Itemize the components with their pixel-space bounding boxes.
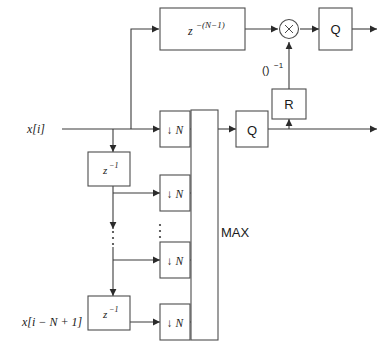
arrow-into-downsampler-3 bbox=[153, 257, 160, 264]
block-delay-unit-1-base: z bbox=[102, 164, 108, 176]
block-quantizer-mid-label: Q bbox=[247, 123, 257, 138]
arrow-into-downsampler-1 bbox=[153, 126, 160, 133]
block-max[interactable] bbox=[191, 110, 218, 340]
arrow-into-delay-2 bbox=[110, 289, 117, 296]
arrow-into-quantizer-mid bbox=[229, 126, 236, 133]
block-downsampler-4-label: ↓ N bbox=[167, 317, 185, 329]
arrow-output-top bbox=[370, 26, 377, 33]
block-reciprocal-label: R bbox=[284, 97, 293, 112]
arrow-into-downsampler-2 bbox=[153, 190, 160, 197]
block-quantizer-top-label: Q bbox=[330, 22, 340, 37]
block-downsampler-2-label: ↓ N bbox=[167, 188, 185, 200]
label-input-top: x[i] bbox=[26, 122, 45, 136]
block-delay-unit-2-exponent: −1 bbox=[109, 305, 118, 314]
block-max-label: MAX bbox=[221, 225, 250, 240]
block-delay-long-exponent: −(N−1) bbox=[196, 20, 225, 30]
block-delay-unit-2-base: z bbox=[102, 308, 108, 320]
arrow-delay-1-down bbox=[110, 222, 117, 229]
ellipsis-branch-icon bbox=[159, 224, 161, 238]
ellipsis-bus-icon bbox=[112, 231, 114, 245]
block-delay-unit-1-exponent: −1 bbox=[109, 161, 118, 170]
arrow-r-into-multiplier bbox=[286, 42, 293, 49]
arrow-into-delay-1 bbox=[110, 145, 117, 152]
arrow-output-mid bbox=[370, 126, 377, 133]
diagram-canvas: z −(N−1) Q R Q MAX ↓ N z −1 ↓ N ↓ N z bbox=[0, 0, 387, 359]
wire-branch-to-long-delay bbox=[131, 29, 159, 129]
arrow-into-quantizer-top bbox=[312, 26, 319, 33]
arrow-into-downsampler-4 bbox=[153, 319, 160, 326]
inverse-annotation-exponent: −1 bbox=[274, 61, 284, 70]
block-downsampler-3-label: ↓ N bbox=[167, 255, 185, 267]
block-downsampler-1-label: ↓ N bbox=[167, 124, 185, 136]
block-delay-long-base: z bbox=[187, 24, 193, 38]
arrow-into-r bbox=[286, 119, 293, 126]
block-diagram: z −(N−1) Q R Q MAX ↓ N z −1 ↓ N ↓ N z bbox=[0, 0, 387, 359]
inverse-annotation-base: () bbox=[262, 64, 269, 76]
arrow-into-long-delay bbox=[152, 26, 159, 33]
label-input-bottom: x[i − N + 1] bbox=[21, 315, 83, 329]
arrow-into-multiplier bbox=[271, 26, 278, 33]
